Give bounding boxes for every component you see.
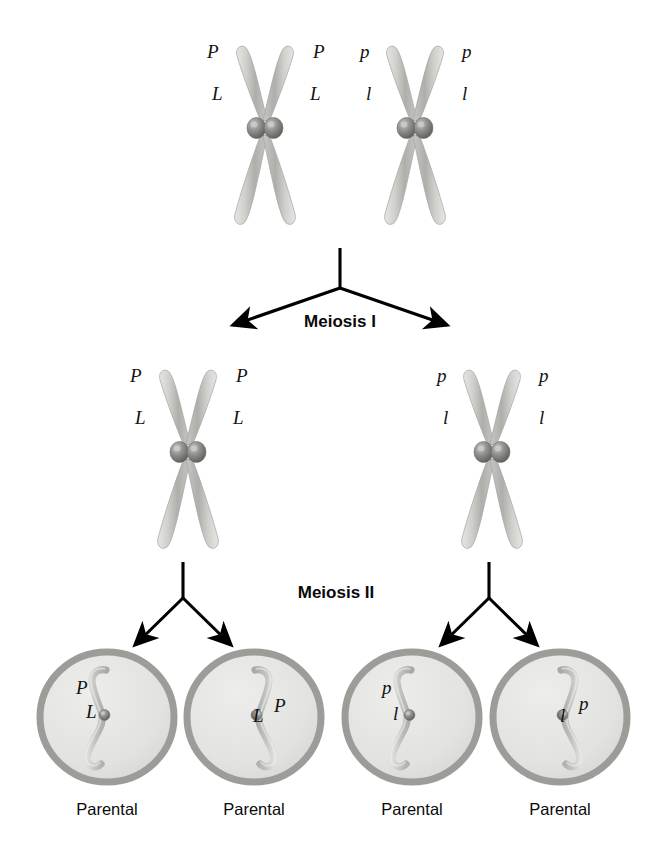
allele-label-P-right-top: P bbox=[312, 41, 325, 62]
diagram-canvas: P P L L p p l l Meiosis I P bbox=[0, 0, 672, 848]
allele-label-P-left-top: P bbox=[206, 41, 219, 62]
gamete-caption-2: Parental bbox=[223, 800, 284, 818]
meiosis-two-arrow-right-a bbox=[441, 598, 489, 645]
meiosis-two-arrow-right-b bbox=[489, 598, 537, 645]
gamete-cell-3: p l Parental bbox=[345, 652, 479, 818]
gamete-allele-top-1: P bbox=[75, 677, 88, 698]
allele-label-p-right-top-2: p bbox=[537, 365, 549, 386]
allele-label-L-left-bottom: L bbox=[211, 83, 223, 104]
homologous-pair-row: P P L L p p l l bbox=[206, 41, 472, 224]
gamete-row: P L Parental L P Parental p bbox=[40, 652, 627, 818]
meiosis-one-products-row: P P L L p p l l bbox=[129, 365, 549, 548]
allele-label-L-right-bottom-2: L bbox=[232, 407, 244, 428]
meiosis-two-arrow-group-right bbox=[441, 562, 537, 645]
gamete-allele-bottom-2: L bbox=[252, 705, 264, 726]
gamete-caption-3: Parental bbox=[381, 800, 442, 818]
allele-label-l-left-bottom: l bbox=[366, 83, 371, 104]
allele-label-l-left-bottom-2: l bbox=[443, 407, 448, 428]
allele-label-p-left-top-2: p bbox=[435, 365, 447, 386]
meiosis-two-arrow-left-b bbox=[183, 598, 231, 645]
meiosis-diagram: P P L L p p l l Meiosis I P bbox=[0, 0, 672, 848]
allele-label-L-right-bottom: L bbox=[309, 83, 321, 104]
allele-label-P-left-top-2: P bbox=[129, 365, 142, 386]
chromosome-paternal: p p l l bbox=[358, 41, 472, 224]
allele-label-P-right-top-2: P bbox=[235, 365, 248, 386]
chromosome-secondary-left: P P L L bbox=[129, 365, 248, 548]
gamete-allele-bottom-1: L bbox=[85, 701, 97, 722]
gamete-cell-4: l p Parental bbox=[493, 652, 627, 818]
allele-label-l-right-bottom: l bbox=[462, 83, 467, 104]
gamete-allele-top-4: p bbox=[577, 693, 589, 714]
meiosis-two-label: Meiosis II bbox=[298, 583, 375, 602]
allele-label-l-right-bottom-2: l bbox=[539, 407, 544, 428]
allele-label-p-right-top: p bbox=[460, 41, 472, 62]
chromosome-secondary-right: p p l l bbox=[435, 365, 549, 548]
meiosis-two-arrow-left-a bbox=[135, 598, 183, 645]
gamete-allele-top-2: P bbox=[273, 695, 286, 716]
gamete-cell-2: L P Parental bbox=[187, 652, 321, 818]
chromosome-maternal: P P L L bbox=[206, 41, 325, 224]
allele-label-p-left-top: p bbox=[358, 41, 370, 62]
meiosis-one-arrow-group: Meiosis I bbox=[233, 248, 447, 331]
allele-label-L-left-bottom-2: L bbox=[134, 407, 146, 428]
gamete-allele-bottom-3: l bbox=[393, 703, 398, 724]
gamete-allele-bottom-4: l bbox=[560, 705, 565, 726]
gamete-caption-4: Parental bbox=[529, 800, 590, 818]
gamete-allele-top-3: p bbox=[380, 677, 392, 698]
gamete-cell-1: P L Parental bbox=[40, 652, 174, 818]
meiosis-one-label: Meiosis I bbox=[304, 312, 376, 331]
gamete-caption-1: Parental bbox=[76, 800, 137, 818]
meiosis-two-arrow-group-left bbox=[135, 562, 231, 645]
